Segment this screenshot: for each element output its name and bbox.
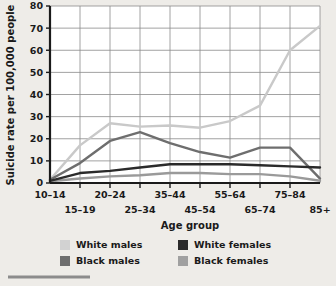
x-tick-label: 65–74 [244, 204, 276, 215]
y-tick-label: 20 [30, 133, 44, 144]
y-tick-label: 50 [30, 67, 44, 78]
y-tick-label: 70 [30, 23, 44, 34]
y-tick-label: 60 [30, 45, 44, 56]
y-tick-label: 10 [30, 155, 44, 166]
y-axis-title: Suicide rate per 100,000 people [5, 4, 16, 185]
y-tick-label: 0 [36, 177, 43, 188]
chart-figure: 01020304050607080 10–1415–1920–2425–3435… [0, 0, 336, 286]
legend-label: White males [76, 239, 143, 250]
x-tick-label: 45–54 [184, 204, 216, 215]
legend-swatch [60, 240, 70, 250]
y-tick-label: 40 [30, 89, 44, 100]
legend-label: Black males [76, 255, 140, 266]
y-tick-label: 30 [30, 111, 44, 122]
x-tick-label: 15–19 [64, 204, 95, 215]
x-tick-label: 25–34 [124, 204, 156, 215]
x-tick-label: 75–84 [274, 189, 306, 200]
x-tick-label: 85+ [309, 204, 330, 215]
y-axis-ticks: 01020304050607080 [30, 0, 50, 188]
legend-label: White females [194, 239, 271, 250]
suicide-rate-line-chart: 01020304050607080 10–1415–1920–2425–3435… [0, 0, 336, 286]
x-tick-label: 35–44 [154, 189, 186, 200]
x-tick-label: 20–24 [94, 189, 126, 200]
legend-swatch [60, 256, 70, 266]
x-tick-label: 10–14 [34, 189, 66, 200]
legend-label: Black females [194, 255, 269, 266]
y-tick-label: 80 [30, 0, 44, 11]
legend-swatch [178, 240, 188, 250]
x-axis-title: Age group [161, 220, 219, 231]
x-tick-label: 55–64 [214, 189, 246, 200]
legend-swatch [178, 256, 188, 266]
